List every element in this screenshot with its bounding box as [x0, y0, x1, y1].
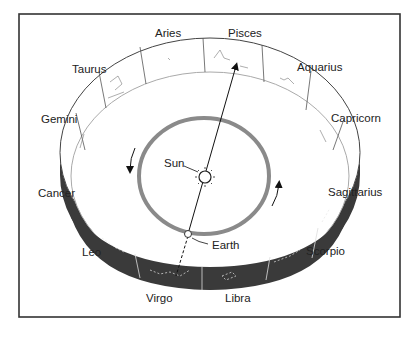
label-capricorn: Capricorn: [331, 112, 381, 124]
label-pisces: Pisces: [228, 27, 262, 39]
label-scorpio: Scorpio: [306, 245, 345, 257]
label-sun: Sun: [164, 157, 184, 169]
zodiac-diagram: Sun Earth Aries Pisces Aquarius Capricor…: [0, 0, 416, 338]
label-earth: Earth: [212, 239, 240, 251]
label-leo: Leo: [82, 246, 101, 258]
label-libra: Libra: [225, 292, 251, 304]
label-gemini: Gemini: [41, 113, 77, 125]
label-cancer: Cancer: [38, 187, 75, 199]
label-virgo: Virgo: [146, 292, 173, 304]
label-aquarius: Aquarius: [297, 61, 343, 73]
label-aries: Aries: [155, 27, 181, 39]
label-sagittarius: Sagittarius: [328, 186, 383, 198]
label-taurus: Taurus: [72, 63, 107, 75]
earth-icon: [185, 231, 192, 238]
